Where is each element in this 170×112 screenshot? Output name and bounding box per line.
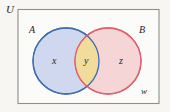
region-x-label: x xyxy=(52,56,56,66)
region-z-label: z xyxy=(119,56,123,66)
universe-label: U xyxy=(6,4,14,15)
set-b-label: B xyxy=(139,25,145,35)
venn-diagram-figure: U A B x y z w xyxy=(0,0,170,112)
set-a-label: A xyxy=(29,25,35,35)
region-y-label: y xyxy=(84,56,88,66)
region-w-label: w xyxy=(141,87,147,96)
